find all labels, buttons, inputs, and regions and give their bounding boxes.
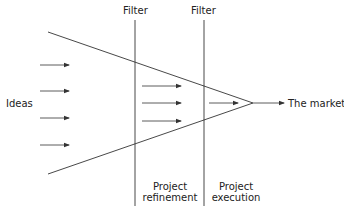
stage-label-refinement: Project refinement: [137, 181, 203, 203]
execution-line-1: Project: [205, 181, 267, 192]
funnel-top-edge: [48, 32, 253, 103]
execution-line-2: execution: [205, 192, 267, 203]
market-label: The market: [288, 98, 344, 109]
funnel-diagram: Filter Filter Ideas The market Project r…: [0, 0, 344, 216]
filter-label-1: Filter: [123, 5, 148, 16]
refinement-arrows: [142, 86, 181, 121]
idea-arrows: [40, 65, 69, 145]
ideas-label: Ideas: [6, 98, 33, 109]
funnel-bottom-edge: [48, 103, 253, 174]
refinement-line-2: refinement: [137, 192, 203, 203]
stage-label-execution: Project execution: [205, 181, 267, 203]
refinement-line-1: Project: [137, 181, 203, 192]
filter-label-2: Filter: [191, 5, 216, 16]
